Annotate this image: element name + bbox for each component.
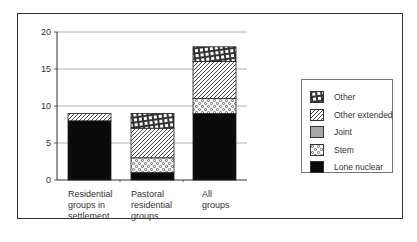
- legend-item: Lone nuclear: [310, 160, 383, 174]
- legend-swatch-circles-icon: [310, 144, 324, 156]
- bar-segment-lone-nuclear: [193, 113, 236, 180]
- bar-segment-other-extended: [131, 128, 174, 158]
- x-category-label: Residentialgroups insettlement: [68, 189, 113, 222]
- legend-item: Other extended: [310, 108, 393, 122]
- y-tick-label: 20: [41, 27, 51, 37]
- legend-swatch-crosshatch-icon: [310, 91, 324, 103]
- legend-label: Lone nuclear: [334, 162, 383, 172]
- legend-swatch-diagonal-hatch-icon: [310, 109, 324, 121]
- legend-item: Other: [310, 90, 355, 104]
- legend-label: Stem: [334, 145, 354, 155]
- y-tick-label: 15: [41, 64, 51, 74]
- bar-segment-stem: [131, 158, 174, 173]
- bar-segment-other: [131, 113, 174, 128]
- bars: [68, 47, 236, 180]
- y-tick-label: 10: [41, 101, 51, 111]
- legend-swatch-solid-black-icon: [310, 161, 324, 173]
- bar-segment-stem: [193, 99, 236, 114]
- x-category-label: Pastoralresidentialgroups: [131, 189, 172, 222]
- legend: OtherOther extendedJointStemLone nuclear: [301, 79, 393, 173]
- bar-stack: [68, 113, 111, 180]
- bar-segment-other-extended: [68, 113, 111, 120]
- y-tick-label: 5: [46, 138, 51, 148]
- bar-segment-lone-nuclear: [131, 173, 174, 180]
- x-category-label: Allgroups: [202, 189, 230, 211]
- legend-swatch-solid-grey-icon: [310, 126, 324, 138]
- bar-segment-other-extended: [193, 62, 236, 99]
- legend-item: Stem: [310, 143, 354, 157]
- bar-stack: [131, 113, 174, 180]
- legend-label: Other extended: [334, 110, 393, 120]
- legend-label: Other: [334, 92, 355, 102]
- bar-stack: [193, 47, 236, 180]
- legend-label: Joint: [334, 127, 352, 137]
- bar-segment-lone-nuclear: [68, 121, 111, 180]
- bar-segment-other: [193, 47, 236, 62]
- legend-item: Joint: [310, 125, 352, 139]
- y-tick-label: 0: [46, 175, 51, 185]
